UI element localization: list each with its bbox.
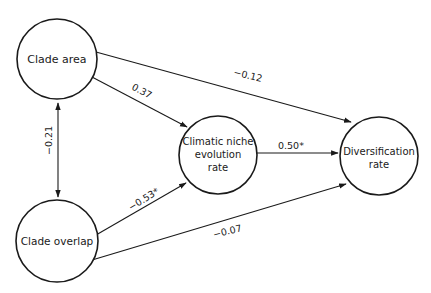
edge-label-clade-overlap-climatic-niche: −0.53* [126,185,161,212]
path-diagram: −0.12 0.37 −0.21 −0.53* −0.07 0.50* Clad… [0,0,431,293]
node-label-climatic-niche-line1: Climatic niche [183,136,254,147]
node-label-climatic-niche-line2: evolution [195,149,241,160]
edge-label-clade-area-diversification: −0.12 [233,66,264,84]
node-label-clade-area: Clade area [27,53,86,66]
node-label-diversification-line1: Diversification [343,146,415,157]
edge-clade-overlap-to-diversification [92,184,346,260]
edge-clade-overlap-to-climatic-niche [96,183,186,235]
edge-label-clade-overlap-diversification: −0.07 [212,222,243,240]
node-climatic-niche: Climatic niche evolution rate [179,116,257,194]
node-label-clade-overlap: Clade overlap [21,235,94,247]
node-label-diversification-line2: rate [369,159,389,170]
edge-label-clade-area-clade-overlap: −0.21 [43,126,54,155]
edge-label-climatic-niche-diversification: 0.50* [278,140,304,151]
node-clade-area: Clade area [17,19,97,99]
node-clade-overlap: Clade overlap [16,200,98,282]
edge-label-clade-area-climatic-niche: 0.37 [130,81,154,101]
node-label-climatic-niche-line3: rate [208,162,228,173]
node-diversification: Diversification rate [340,117,418,195]
